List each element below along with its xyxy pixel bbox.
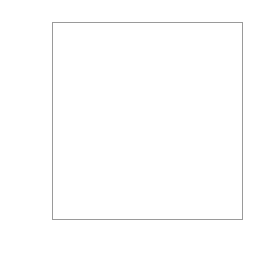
plot-frame (53, 23, 243, 220)
normal-probability-plot (0, 0, 267, 268)
chart-canvas (0, 0, 267, 268)
